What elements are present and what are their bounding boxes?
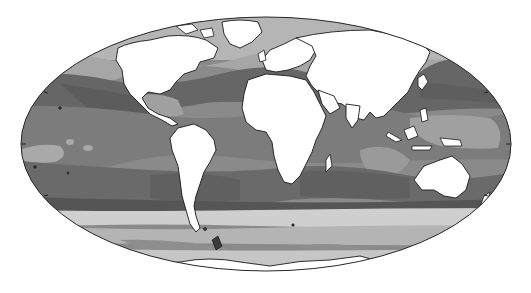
ocean-field bbox=[0, 0, 531, 293]
world-map bbox=[0, 0, 531, 293]
world-map-svg bbox=[0, 0, 531, 293]
southern-ocean-light-band bbox=[0, 208, 531, 228]
high-latitude-north-band bbox=[0, 0, 531, 60]
